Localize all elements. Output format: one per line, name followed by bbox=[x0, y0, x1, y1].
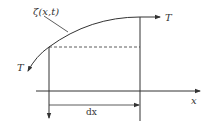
dx-label: dx bbox=[86, 107, 97, 117]
curve-label: ζ(x,t) bbox=[33, 6, 59, 17]
x-axis-label: x bbox=[191, 95, 197, 106]
tension-left-label: T bbox=[17, 62, 25, 73]
curve-label-leader bbox=[44, 16, 68, 32]
string-element-diagram: ζ(x,t) T T x dx bbox=[0, 0, 214, 129]
diagram-canvas: ζ(x,t) T T x dx bbox=[0, 0, 214, 129]
tension-right-label: T bbox=[165, 12, 173, 23]
